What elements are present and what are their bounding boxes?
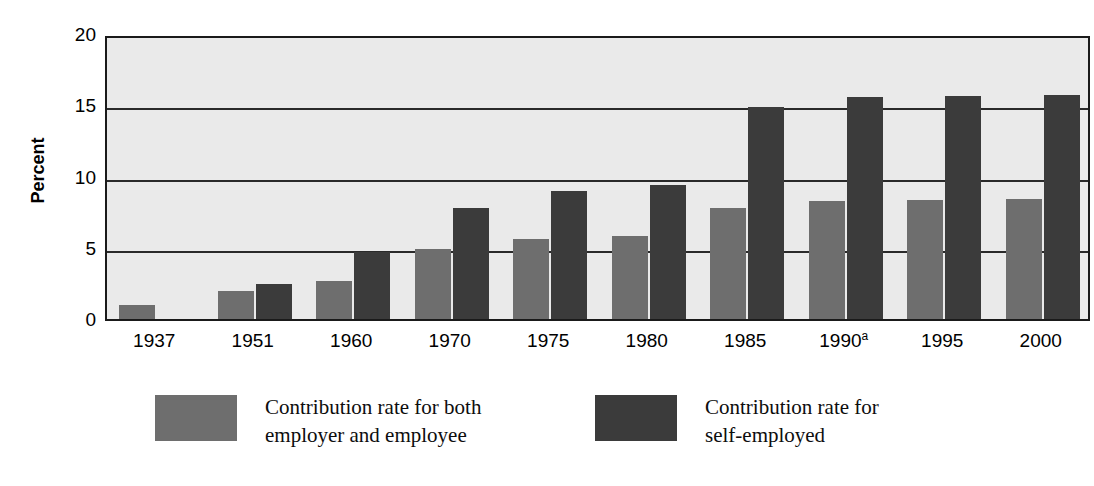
y-tick-label: 20 xyxy=(40,24,96,46)
x-tick-footnote-marker: a xyxy=(862,329,869,343)
y-tick-label: 0 xyxy=(40,309,96,331)
y-tick-label: 5 xyxy=(40,238,96,260)
y-tick-label: 15 xyxy=(40,95,96,117)
bar-1995-series2 xyxy=(945,96,981,319)
bar-1995-series1 xyxy=(907,200,943,319)
legend-label-line2: self-employed xyxy=(705,421,879,449)
bar-1970-series1 xyxy=(415,249,451,319)
legend-label-line1: Contribution rate for xyxy=(705,393,879,421)
bar-1951-series2 xyxy=(256,284,292,319)
gridline xyxy=(107,108,1088,110)
legend-label: Contribution rate for bothemployer and e… xyxy=(265,393,481,449)
bar-1980-series2 xyxy=(650,185,686,319)
legend-swatch-dark xyxy=(595,395,677,441)
chart-legend: Contribution rate for bothemployer and e… xyxy=(0,393,1094,483)
bar-2000-series1 xyxy=(1006,199,1042,319)
bar-1960-series2 xyxy=(354,252,390,319)
legend-label-line1: Contribution rate for both xyxy=(265,393,481,421)
bar-1975-series2 xyxy=(551,191,587,319)
x-tick-label-2000: 2000 xyxy=(981,330,1094,352)
bar-1960-series1 xyxy=(316,281,352,319)
bar-1990-series1 xyxy=(809,201,845,319)
bar-1975-series1 xyxy=(513,239,549,319)
chart-figure: Percent 05101520 19371951196019701975198… xyxy=(0,0,1094,486)
bar-1937-series1 xyxy=(119,305,155,319)
plot-area xyxy=(105,36,1090,321)
legend-entry-1[interactable]: Contribution rate for bothemployer and e… xyxy=(155,393,481,449)
y-tick-label: 10 xyxy=(40,167,96,189)
legend-entry-2[interactable]: Contribution rate forself-employed xyxy=(595,393,879,449)
bar-1990-series2 xyxy=(847,97,883,319)
bar-1980-series1 xyxy=(612,236,648,319)
legend-label: Contribution rate forself-employed xyxy=(705,393,879,449)
gridline xyxy=(107,180,1088,182)
bar-1985-series2 xyxy=(748,107,784,319)
bar-1970-series2 xyxy=(453,208,489,319)
bar-2000-series2 xyxy=(1044,95,1080,319)
bar-1951-series1 xyxy=(218,291,254,320)
bar-1985-series1 xyxy=(710,208,746,319)
legend-swatch-light xyxy=(155,395,237,441)
legend-label-line2: employer and employee xyxy=(265,421,481,449)
